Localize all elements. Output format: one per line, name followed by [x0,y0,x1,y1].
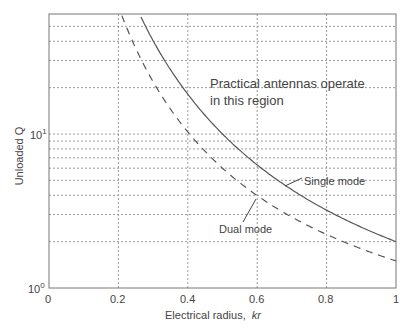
x-tick-0: 0 [45,293,51,305]
x-tick-0.4: 0.4 [180,293,195,305]
plot-area [0,0,410,333]
y-tick-10-1: 101 [30,127,47,141]
single-mode-label: Single mode [304,175,365,187]
x-tick-0.8: 0.8 [318,293,333,305]
x-tick-1: 1 [393,293,399,305]
x-tick-0.6: 0.6 [249,293,264,305]
dual-mode-label: Dual mode [219,223,272,235]
x-tick-0.2: 0.2 [110,293,125,305]
y-axis-label: Unloaded Q [13,127,25,186]
x-axis-label: Electrical radius, kr [165,309,261,321]
y-tick-10-0: 100 [28,281,45,295]
region-annotation-line2: in this region [210,93,284,108]
region-annotation-line1: Practical antennas operate [210,76,365,91]
single-mode-curve [141,17,396,242]
